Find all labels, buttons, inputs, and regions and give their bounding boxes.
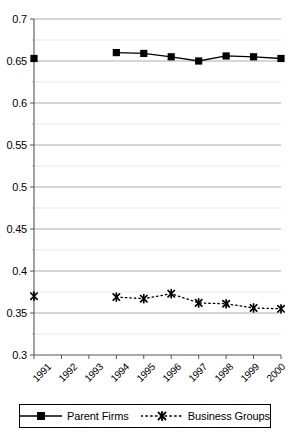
y-tick-label: 0.7 bbox=[0, 13, 27, 25]
legend-item-parent-firms: Parent Firms bbox=[20, 410, 129, 422]
chart-figure: 0.7 0.65 0.6 0.55 0.5 0.45 0.4 0.35 0.3 … bbox=[0, 0, 292, 437]
y-tick-label: 0.35 bbox=[0, 307, 27, 319]
y-tick-label: 0.65 bbox=[0, 55, 27, 67]
y-tick-label: 0.6 bbox=[0, 97, 27, 109]
legend-label: Parent Firms bbox=[67, 410, 129, 422]
legend-marker-x-cross bbox=[141, 410, 183, 422]
y-tick-label: 0.3 bbox=[0, 349, 27, 361]
y-tick-label: 0.4 bbox=[0, 265, 27, 277]
legend-label: Business Groups bbox=[188, 410, 270, 422]
legend-marker-filled-square bbox=[20, 410, 62, 422]
chart-legend: Parent Firms Business Groups bbox=[19, 404, 271, 428]
y-tick-label: 0.5 bbox=[0, 181, 27, 193]
legend-item-business-groups: Business Groups bbox=[141, 410, 270, 422]
y-tick-label: 0.45 bbox=[0, 223, 27, 235]
y-tick-label: 0.55 bbox=[0, 139, 27, 151]
